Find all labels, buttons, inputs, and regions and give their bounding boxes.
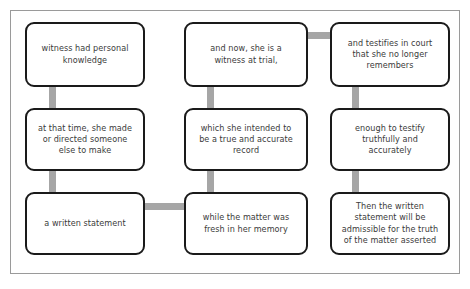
node-testify-truthfully[interactable]: enough to testify truthfully and accurat…	[330, 108, 450, 171]
node-written-statement[interactable]: a written statement	[25, 192, 145, 255]
connector-n1-n4	[49, 84, 56, 111]
node-label: while the matter was fresh in her memory	[192, 212, 300, 234]
node-label: at that time, she made or directed someo…	[33, 123, 137, 156]
node-fresh-in-memory[interactable]: while the matter was fresh in her memory	[184, 192, 308, 255]
node-label: which she intended to be a true and accu…	[192, 123, 300, 156]
node-label: Then the written statement will be admis…	[338, 201, 442, 246]
node-label: and testifies in court that she no longe…	[338, 38, 442, 71]
connector-n7-n8	[141, 203, 189, 210]
node-label: enough to testify truthfully and accurat…	[338, 123, 442, 156]
node-witness-at-trial[interactable]: and now, she is a witness at trial,	[184, 22, 308, 87]
connector-n5-n8	[207, 168, 214, 195]
node-label: a written statement	[33, 218, 137, 229]
connector-n3-n6	[352, 84, 359, 111]
node-label: and now, she is a witness at trial,	[192, 43, 300, 65]
node-witness-personal-knowledge[interactable]: witness had personal knowledge	[25, 22, 145, 87]
node-label: witness had personal knowledge	[33, 43, 137, 65]
flowchart-diagram: witness had personal knowledge and now, …	[0, 0, 470, 289]
node-true-and-accurate-record[interactable]: which she intended to be a true and accu…	[184, 108, 308, 171]
node-testifies-no-longer-remembers[interactable]: and testifies in court that she no longe…	[330, 22, 450, 87]
connector-n2-n5	[207, 84, 214, 111]
node-made-or-directed[interactable]: at that time, she made or directed someo…	[25, 108, 145, 171]
connector-n4-n7	[49, 168, 56, 195]
connector-n6-n9	[352, 168, 359, 195]
node-admissible-for-truth[interactable]: Then the written statement will be admis…	[330, 192, 450, 255]
